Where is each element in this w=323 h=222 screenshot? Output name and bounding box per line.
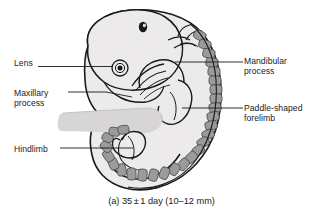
caption-panel-letter: (a) — [108, 196, 119, 206]
label-mandibular-line-1: Mandibular — [244, 56, 287, 66]
label-hindlimb: Hindlimb — [14, 144, 48, 154]
label-maxillary-process: Maxillary process — [14, 88, 48, 109]
label-forelimb-line-2: forelimb — [244, 113, 302, 123]
label-maxillary-line-1: Maxillary — [14, 88, 48, 98]
embryo-figure: Lens Maxillary process Hindlimb Mandibul… — [0, 0, 323, 222]
label-paddle-shaped-forelimb: Paddle-shaped forelimb — [244, 103, 302, 124]
head-contour — [87, 10, 182, 90]
label-hindlimb-line-1: Hindlimb — [14, 144, 48, 154]
caption-age-value: 35 — [122, 196, 132, 206]
eye-lens-icon — [112, 60, 128, 76]
label-forelimb-line-1: Paddle-shaped — [244, 103, 302, 113]
figure-caption: (a) 35±1 day (10–12 mm) — [0, 196, 323, 206]
caption-age-unit: day — [148, 196, 163, 206]
label-mandibular-line-2: process — [244, 66, 287, 76]
label-lens: Lens — [14, 58, 33, 68]
otic-vesicle-icon — [139, 22, 147, 32]
label-lens-line-1: Lens — [14, 58, 33, 68]
label-maxillary-line-2: process — [14, 98, 48, 108]
label-mandibular-process: Mandibular process — [244, 56, 287, 77]
caption-tolerance: 1 — [140, 196, 145, 206]
caption-size-range: (10–12 mm) — [165, 196, 215, 206]
